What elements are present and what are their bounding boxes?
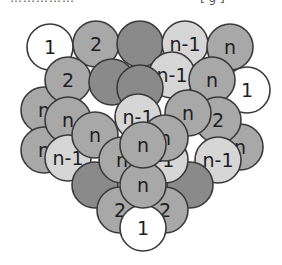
sphere-label: 1 <box>241 79 253 101</box>
sphere-layer-n: n <box>120 122 166 168</box>
sphere-label: 2 <box>62 69 74 91</box>
sphere-label: n-1 <box>203 149 234 171</box>
sphere-pyramid-diagram: 12n-1n1nnn2n-1n2nn-1n-1nn22n-1n-1n1nn <box>0 0 282 265</box>
sphere-label: 1 <box>137 217 149 239</box>
sphere-label: n <box>89 124 101 146</box>
sphere-label: 2 <box>212 109 224 131</box>
sphere-label: n <box>182 102 194 124</box>
sphere-label: n <box>62 109 74 131</box>
sphere-label: n <box>206 69 218 91</box>
sphere-layer-1: 1 <box>120 205 166 251</box>
sphere-layer-n: n <box>120 162 166 208</box>
sphere-label: n <box>137 174 149 196</box>
sphere-label: 2 <box>90 33 102 55</box>
sphere-layer-2: 2 <box>45 57 91 103</box>
sphere-label: 1 <box>44 36 56 58</box>
sphere-label: n <box>224 36 236 58</box>
sphere-label: n <box>137 134 149 156</box>
